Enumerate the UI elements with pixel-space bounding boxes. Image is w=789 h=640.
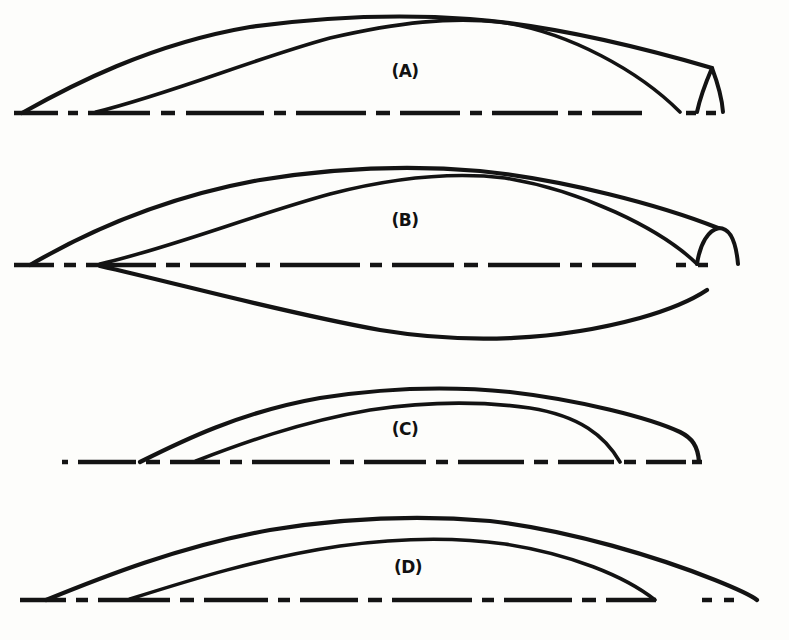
paper-background: [0, 0, 789, 640]
figure-root: (A) (B) (C) (D): [0, 0, 789, 640]
profile-diagram: (A) (B) (C) (D): [0, 0, 789, 640]
panel-b-label: (B): [392, 210, 419, 230]
panel-a-label: (A): [391, 61, 418, 81]
panel-c-label: (C): [392, 419, 419, 439]
panel-d-label: (D): [394, 557, 422, 577]
